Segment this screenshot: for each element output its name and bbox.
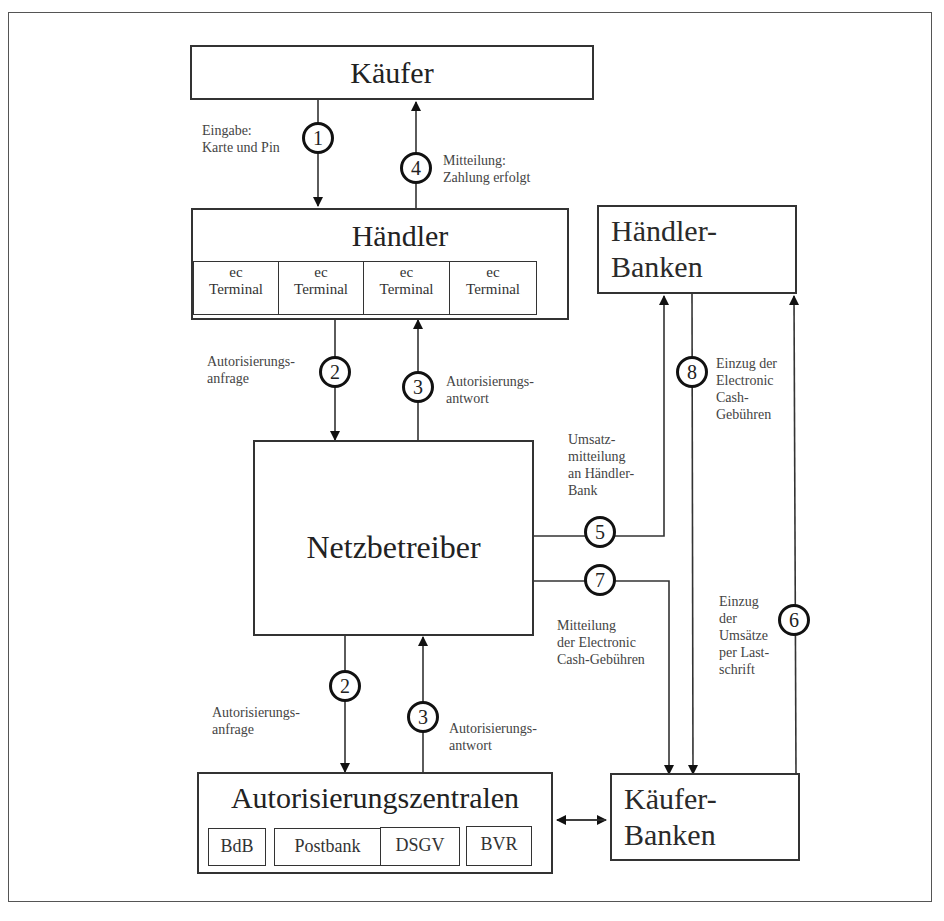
node-haendler-banken: Händler- Banken [597, 205, 797, 294]
ec-terminal-1: ec Terminal [193, 261, 279, 315]
step-3-upper-badge: 3 [402, 371, 434, 403]
ec-terminal-1-line1: ec [194, 264, 278, 281]
member-bvr: BVR [466, 826, 532, 866]
step-3-lower-badge: 3 [407, 701, 439, 733]
step-2-lower-badge: 2 [329, 670, 361, 702]
step-3-upper-label: Autorisierungs- antwort [446, 373, 534, 407]
node-haendler-banken-line2: Banken [611, 249, 703, 285]
ec-terminal-3-line1: ec [364, 264, 449, 281]
step-2-upper-badge: 2 [319, 356, 351, 388]
step-2-upper-label: Autorisierungs- anfrage [207, 353, 295, 387]
ec-terminal-4: ec Terminal [449, 261, 537, 315]
step-7-badge: 7 [584, 564, 616, 596]
member-bdb: BdB [208, 828, 266, 866]
node-kaeufer-banken-line1: Käufer- [624, 781, 717, 817]
node-kaeufer-banken-line2: Banken [624, 817, 716, 853]
ec-terminal-2-line1: ec [279, 264, 363, 281]
step-7-label: Mitteilung der Electronic Cash-Gebühren [557, 617, 645, 668]
node-haendler-label: Händler [193, 218, 567, 254]
member-dsgv: DSGV [380, 827, 460, 866]
ec-terminal-2: ec Terminal [278, 261, 364, 315]
step-6-badge: 6 [778, 604, 810, 636]
ec-terminal-3-line2: Terminal [364, 281, 449, 298]
step-4-badge: 4 [400, 152, 432, 184]
ec-terminal-4-line1: ec [450, 264, 536, 281]
step-5-badge: 5 [584, 516, 616, 548]
step-2-lower-label: Autorisierungs- anfrage [212, 704, 300, 738]
ec-terminal-3: ec Terminal [363, 261, 450, 315]
node-netzbetreiber-label: Netzbetreiber [255, 528, 532, 566]
node-kaeufer-label: Käufer [192, 55, 592, 91]
ec-terminal-2-line2: Terminal [279, 281, 363, 298]
node-netzbetreiber: Netzbetreiber [253, 440, 534, 636]
step-1-label: Eingabe: Karte und Pin [202, 122, 280, 156]
step-8-label: Einzug der Electronic Cash- Gebühren [716, 355, 777, 423]
ec-terminal-4-line2: Terminal [450, 281, 536, 298]
step-8-badge: 8 [676, 356, 708, 388]
step-4-label: Mitteilung: Zahlung erfolgt [443, 152, 530, 186]
step-3-lower-label: Autorisierungs- antwort [449, 720, 537, 754]
step-5-label: Umsatz- mitteilung an Händler- Bank [568, 431, 634, 499]
node-autorisierungszentralen: Autorisierungszentralen BdB Postbank DSG… [197, 772, 553, 874]
step-1-badge: 1 [302, 122, 334, 154]
node-haendler-banken-line1: Händler- [611, 213, 717, 249]
node-autorisierungszentralen-label: Autorisierungszentralen [199, 780, 551, 816]
step-6-label: Einzug der Umsätze per Last- schrift [719, 593, 769, 678]
node-haendler: Händler ec Terminal ec Terminal ec Termi… [191, 208, 569, 320]
member-postbank: Postbank [274, 828, 381, 866]
ec-terminal-1-line2: Terminal [194, 281, 278, 298]
node-kaeufer-banken: Käufer- Banken [610, 773, 800, 861]
node-kaeufer: Käufer [190, 45, 594, 100]
